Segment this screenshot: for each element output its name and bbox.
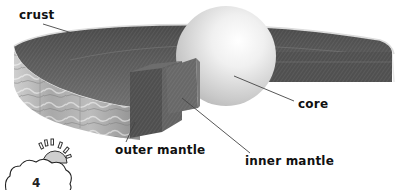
- crust-label: crust: [19, 9, 54, 21]
- inner-mantle-label: inner mantle: [245, 155, 334, 167]
- outer-mantle-label: outer mantle: [115, 144, 205, 156]
- inner-mantle-block: [166, 58, 200, 114]
- core-label: core: [298, 98, 328, 110]
- earth-layers-diagram: crust core outer mantle inner mantle 4: [0, 0, 408, 190]
- page-number: 4: [32, 177, 40, 189]
- diagram-graphic: [0, 0, 408, 190]
- crust-leader-line: [43, 24, 72, 33]
